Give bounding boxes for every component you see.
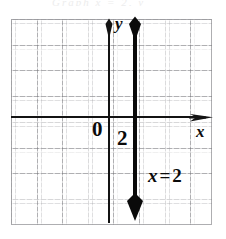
- graph-grid: [11, 19, 212, 225]
- x-axis-label: x: [196, 122, 205, 142]
- x-axis: [11, 116, 198, 118]
- equation-variable: x: [148, 165, 158, 186]
- equation-value: 2: [172, 165, 182, 186]
- coordinate-graph-figure: Graph x = 2, y x y 0 2 x=2: [0, 0, 226, 239]
- origin-label: 0: [92, 119, 103, 140]
- line-arrow-down-icon: [122, 192, 148, 222]
- caption-remnant-text: Graph x = 2, y: [52, 0, 178, 6]
- line-arrow-up-icon: [124, 16, 146, 42]
- grid-lines: [11, 19, 212, 225]
- line-x-equals-2: [133, 26, 137, 206]
- equation-label: x=2: [148, 166, 182, 185]
- y-axis-label: y: [115, 14, 123, 34]
- y-axis: [108, 30, 110, 223]
- tick-label-two: 2: [117, 128, 128, 149]
- equation-operator: =: [158, 165, 173, 186]
